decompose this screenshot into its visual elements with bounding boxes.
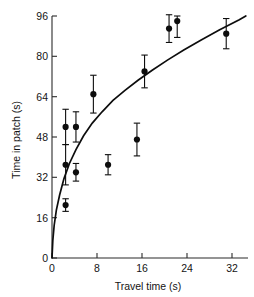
x-axis-title: Travel time (s) [115,280,182,292]
x-tick-label: 0 [49,262,55,274]
y-tick-label: 32 [36,171,48,183]
data-point [174,18,180,24]
y-axis-title: Time in patch (s) [10,101,22,179]
x-axis-ticks: 0 8 16 24 32 [49,253,238,274]
y-tick-label: 0 [42,252,48,264]
data-point [90,91,96,97]
y-tick-label: 16 [36,212,48,224]
data-point [166,26,172,32]
data-point [134,136,140,142]
chart-figure: Time in patch (s) Travel time (s) 0 16 3… [0,0,254,297]
data-point [63,124,69,130]
x-tick-label: 8 [94,262,100,274]
x-tick-label: 24 [181,262,193,274]
x-tick-label: 16 [136,262,148,274]
y-tick-label: 48 [36,131,48,143]
data-point [73,169,79,175]
data-point [105,162,111,168]
x-tick-label: 32 [226,262,238,274]
data-point [63,162,69,168]
y-tick-label: 64 [36,91,48,103]
scatter-plot-svg: Time in patch (s) Travel time (s) 0 16 3… [0,0,254,297]
data-point [223,31,229,37]
fit-curve [52,16,246,258]
data-point [63,202,69,208]
y-tick-label: 96 [36,10,48,22]
data-point [141,68,147,74]
data-points-layer [62,15,229,212]
y-tick-label: 80 [36,50,48,62]
data-point [73,124,79,130]
